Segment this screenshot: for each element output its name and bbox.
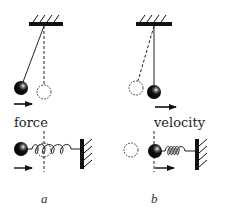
oscillator-diagram: force a velocity — [0, 0, 226, 214]
panel-b: velocity b — [124, 15, 207, 206]
spring-b — [162, 147, 195, 155]
pendulum-string-a — [23, 26, 44, 82]
velocity-label: velocity — [153, 115, 206, 130]
spring-a — [27, 145, 80, 154]
panel-a: force a — [14, 15, 92, 206]
pendulum-bob-a — [14, 81, 28, 95]
previous-mass-circle-b — [124, 143, 138, 157]
previous-position-circle-b — [129, 81, 143, 95]
pendulum-bob-b — [147, 85, 161, 99]
caption-a: a — [41, 191, 48, 206]
ceiling-support-b — [136, 15, 172, 26]
equilibrium-position-circle-a — [37, 85, 51, 99]
previous-string-b — [138, 26, 154, 81]
caption-b: b — [151, 191, 158, 206]
wall-a — [80, 139, 92, 169]
wall-b — [195, 139, 207, 170]
spring-mass-b — [148, 144, 162, 158]
spring-mass-a — [14, 142, 28, 156]
ceiling-support-a — [29, 15, 63, 26]
force-label: force — [14, 115, 48, 130]
